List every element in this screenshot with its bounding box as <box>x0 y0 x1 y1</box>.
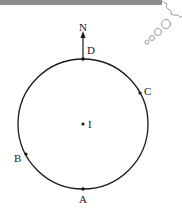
circle-diagram: N D C B A I <box>0 0 182 222</box>
point-b <box>24 152 27 155</box>
north-label: N <box>79 21 87 33</box>
top-bar <box>0 0 162 5</box>
point-d <box>81 57 85 61</box>
center-label: I <box>88 118 92 130</box>
point-a-label: A <box>79 193 87 205</box>
point-a <box>81 187 85 191</box>
center-point <box>81 122 84 125</box>
point-b-label: B <box>14 152 21 164</box>
wavy-edge-decoration <box>161 0 182 17</box>
point-c <box>138 91 141 94</box>
point-d-label: D <box>87 44 95 56</box>
bubbles-decoration <box>145 20 171 45</box>
north-arrow-icon <box>81 31 86 59</box>
point-c-label: C <box>144 85 151 97</box>
